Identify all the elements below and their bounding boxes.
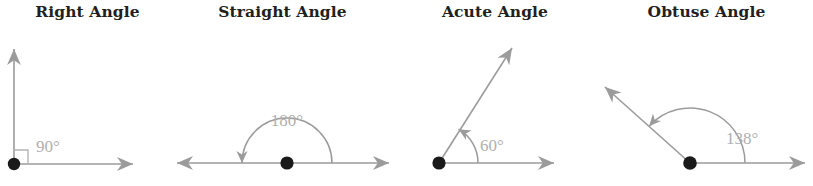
angle-label-60: 60° xyxy=(480,136,504,155)
ray-northwest xyxy=(605,87,690,163)
vertex-point xyxy=(432,156,445,169)
panel-obtuse-angle: Obtuse Angle 138° xyxy=(600,0,813,186)
angle-label-138: 138° xyxy=(726,129,758,148)
panel-title-straight-angle: Straight Angle xyxy=(175,2,390,21)
panel-title-obtuse-angle: Obtuse Angle xyxy=(600,2,813,21)
panel-right-angle: Right Angle 90° xyxy=(0,0,175,186)
vertex-point xyxy=(683,156,697,170)
angle-label-180: 180° xyxy=(271,111,303,130)
diagram-obtuse-angle: 138° xyxy=(600,24,813,186)
panel-title-acute-angle: Acute Angle xyxy=(390,2,600,21)
panel-acute-angle: Acute Angle 60° xyxy=(390,0,600,186)
angle-arc-60 xyxy=(459,129,479,163)
angle-types-figure: Right Angle 90° Straight Angle xyxy=(0,0,813,186)
panel-straight-angle: Straight Angle 180° xyxy=(175,0,390,186)
angle-label-90: 90° xyxy=(36,137,60,156)
vertex-point xyxy=(8,158,20,170)
diagram-right-angle: 90° xyxy=(0,24,175,186)
diagram-straight-angle: 180° xyxy=(175,24,390,186)
vertex-point xyxy=(280,156,293,169)
panel-title-right-angle: Right Angle xyxy=(0,2,175,21)
diagram-acute-angle: 60° xyxy=(390,24,600,186)
